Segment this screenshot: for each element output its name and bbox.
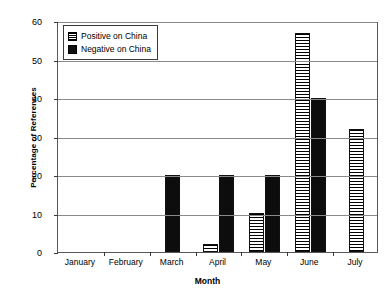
- x-tick-mark: [104, 252, 105, 256]
- horizontal-stripes-swatch: [68, 32, 77, 41]
- y-tick-label: 10: [16, 211, 42, 220]
- bar-march-negative: [165, 175, 180, 252]
- x-tick-mark: [241, 252, 242, 256]
- gridline: [58, 138, 377, 139]
- y-tick-label: 60: [16, 18, 42, 27]
- bar-chart: Percentage of References 0102030405060 P…: [0, 0, 389, 294]
- y-tick-mark: [54, 176, 58, 177]
- x-axis-title: Month: [0, 276, 389, 286]
- x-tick-label-july: July: [315, 257, 389, 267]
- legend-label: Positive on China: [81, 32, 147, 41]
- legend-label: Negative on China: [81, 45, 151, 54]
- gridline: [58, 176, 377, 177]
- y-tick-mark: [54, 138, 58, 139]
- x-tick-mark: [196, 252, 197, 256]
- y-tick-label: 40: [16, 95, 42, 104]
- chart-legend: Positive on ChinaNegative on China: [63, 25, 158, 60]
- legend-item-negative: Negative on China: [68, 43, 151, 55]
- bar-june-negative: [311, 98, 326, 252]
- y-tick-mark: [54, 253, 58, 254]
- gridline: [58, 215, 377, 216]
- bar-april-negative: [219, 175, 234, 252]
- y-tick-mark: [54, 22, 58, 23]
- bar-may-negative: [265, 175, 280, 252]
- gridline: [58, 22, 377, 23]
- bar-april-positive: [203, 244, 218, 252]
- bar-july-positive: [349, 129, 364, 252]
- gridline: [58, 99, 377, 100]
- x-tick-mark: [150, 252, 151, 256]
- bar-may-positive: [249, 213, 264, 252]
- y-tick-mark: [54, 99, 58, 100]
- y-tick-mark: [54, 215, 58, 216]
- solid-black-swatch: [68, 45, 77, 54]
- y-tick-mark: [54, 61, 58, 62]
- x-tick-mark: [333, 252, 334, 256]
- legend-item-positive: Positive on China: [68, 30, 151, 42]
- gridline: [58, 61, 377, 62]
- bar-june-positive: [295, 33, 310, 252]
- y-tick-label: 50: [16, 57, 42, 66]
- x-tick-mark: [287, 252, 288, 256]
- y-tick-label: 0: [16, 249, 42, 258]
- y-tick-label: 30: [16, 134, 42, 143]
- y-tick-label: 20: [16, 172, 42, 181]
